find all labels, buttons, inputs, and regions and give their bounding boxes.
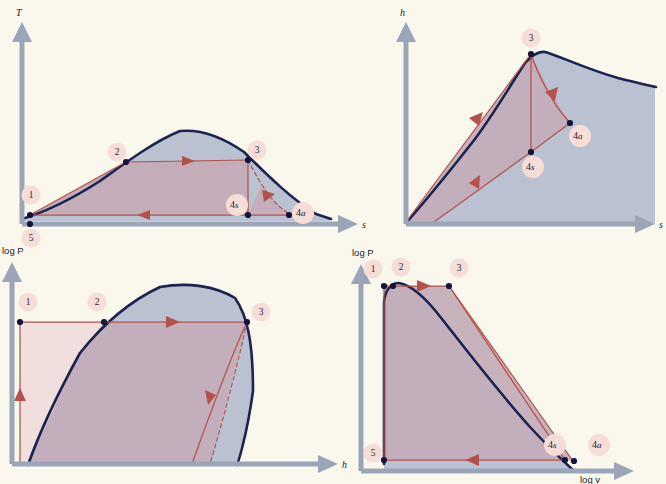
logph-badge-1-label: 1 bbox=[26, 297, 31, 307]
ts-y-axis-label: T bbox=[16, 7, 23, 18]
logpv-badge-2: 2 bbox=[392, 258, 411, 277]
logpv-label-4a-sub: a bbox=[597, 440, 602, 450]
logpv-badge-3: 3 bbox=[450, 259, 469, 278]
logph-point-2 bbox=[101, 319, 107, 325]
svg-text:4a: 4a bbox=[573, 130, 583, 141]
hs-y-axis-label: h bbox=[400, 7, 405, 18]
ts-point-4a bbox=[286, 212, 292, 218]
thermodynamic-diagram-figure: T s 1 2 3 5 bbox=[0, 0, 666, 484]
logpv-badge-2-label: 2 bbox=[399, 262, 404, 272]
ts-plot: T s 1 2 3 5 bbox=[0, 0, 333, 242]
hs-badge-3-label: 3 bbox=[529, 33, 534, 43]
ts-badge-1-label: 1 bbox=[29, 190, 34, 200]
svg-text:4a: 4a bbox=[296, 207, 306, 218]
logph-y-axis-label: log P bbox=[2, 245, 24, 256]
hs-plot: h s 3 4s 4a bbox=[333, 0, 666, 242]
ts-badge-2-label: 2 bbox=[115, 147, 120, 157]
logpv-plot: log P log v 1 2 3 5 bbox=[333, 242, 666, 484]
logpv-point-4s bbox=[562, 457, 568, 463]
ts-badge-2: 2 bbox=[108, 143, 127, 162]
logph-point-3 bbox=[244, 319, 250, 325]
hs-point-4s bbox=[528, 149, 534, 155]
panel-temperature-entropy: T s 1 2 3 5 bbox=[0, 0, 333, 242]
logph-plot: log P h 1 2 3 bbox=[0, 242, 333, 484]
logph-point-1 bbox=[17, 319, 23, 325]
svg-text:4s: 4s bbox=[230, 199, 239, 210]
logpv-point-5 bbox=[381, 457, 387, 463]
ts-label-4a-sub: a bbox=[301, 208, 306, 218]
logpv-badge-1-label: 1 bbox=[371, 264, 376, 274]
logph-badge-2: 2 bbox=[88, 293, 107, 312]
logpv-badge-1: 1 bbox=[364, 260, 383, 279]
hs-y-axis-arrow-icon bbox=[396, 22, 416, 42]
hs-badge-3: 3 bbox=[522, 29, 541, 48]
panel-enthalpy-entropy: h s 3 4s 4a bbox=[333, 0, 666, 242]
hs-point-3 bbox=[528, 51, 534, 57]
hs-point-4a bbox=[567, 120, 573, 126]
ts-label-4s: 4s bbox=[226, 194, 248, 216]
ts-badge-1: 1 bbox=[22, 186, 41, 205]
ts-point-3 bbox=[245, 157, 251, 163]
logpv-label-4s: 4s bbox=[544, 434, 566, 456]
logpv-point-3 bbox=[446, 283, 452, 289]
panel-logp-logv: log P log v 1 2 3 5 bbox=[333, 242, 666, 484]
ts-point-4s bbox=[245, 212, 251, 218]
ts-badge-3-label: 3 bbox=[255, 145, 260, 155]
svg-text:4a: 4a bbox=[592, 439, 602, 450]
logpv-y-axis-label: log P bbox=[352, 247, 374, 258]
ts-point-5 bbox=[27, 221, 33, 227]
logpv-badge-5: 5 bbox=[364, 444, 383, 463]
logpv-badge-3-label: 3 bbox=[457, 263, 462, 273]
ts-point-2 bbox=[123, 159, 129, 165]
panel-logp-enthalpy: log P h 1 2 3 bbox=[0, 242, 333, 484]
logpv-point-1 bbox=[381, 283, 387, 289]
logpv-x-axis-label: log v bbox=[580, 474, 600, 484]
svg-text:4s: 4s bbox=[548, 439, 557, 450]
logpv-x-axis-arrow-icon bbox=[614, 462, 634, 480]
hs-label-4a-sub: a bbox=[578, 131, 583, 141]
hs-label-4s: 4s bbox=[522, 156, 544, 178]
logph-badge-3-label: 3 bbox=[259, 307, 264, 317]
logpv-badge-5-label: 5 bbox=[371, 448, 376, 458]
logph-badge-3: 3 bbox=[252, 303, 271, 322]
hs-label-4a: 4a bbox=[569, 125, 591, 147]
logph-y-axis-arrow-icon bbox=[2, 262, 22, 282]
logpv-point-2 bbox=[390, 283, 396, 289]
ts-point-1 bbox=[27, 212, 33, 218]
ts-label-4s-sub: s bbox=[235, 200, 239, 210]
logpv-label-4s-sub: s bbox=[553, 440, 557, 450]
logpv-label-4a: 4a bbox=[588, 434, 610, 456]
svg-text:4s: 4s bbox=[526, 161, 535, 172]
logph-badge-2-label: 2 bbox=[95, 297, 100, 307]
ts-cycle-area-fill-2 bbox=[30, 160, 248, 215]
ts-badge-3: 3 bbox=[248, 141, 267, 160]
hs-x-axis-label: s bbox=[659, 219, 663, 230]
logpv-point-4a bbox=[571, 458, 577, 464]
ts-y-axis-arrow-icon bbox=[12, 22, 32, 42]
ts-label-4a: 4a bbox=[292, 202, 314, 224]
hs-label-4s-sub: s bbox=[531, 162, 535, 172]
logph-badge-1: 1 bbox=[19, 293, 38, 312]
